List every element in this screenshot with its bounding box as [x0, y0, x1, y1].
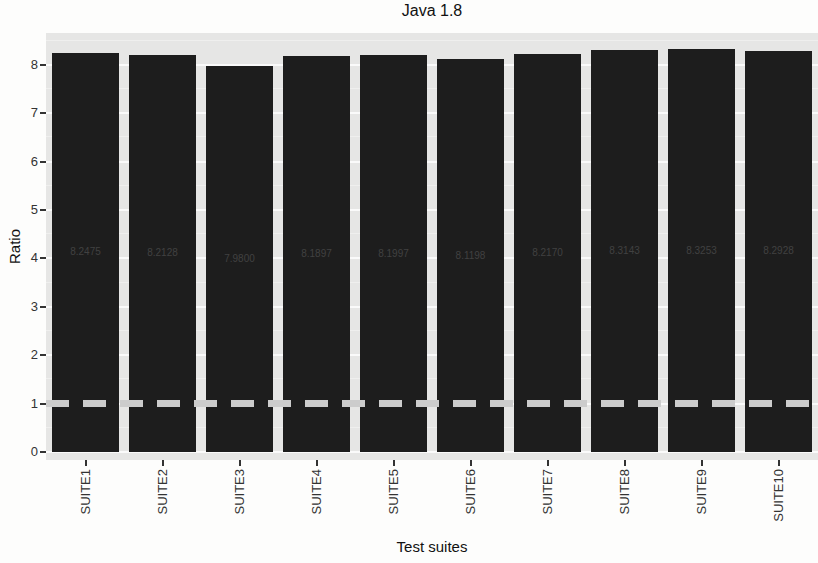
bar-suite5: 8.1997 — [360, 55, 427, 452]
bar-suite1: 8.2475 — [52, 53, 119, 452]
x-tick-label-suite1: SUITE1 — [79, 469, 93, 515]
x-tick-label-suite2: SUITE2 — [156, 469, 170, 515]
y-tick-label: 5 — [0, 203, 38, 217]
y-tick-mark — [40, 306, 46, 308]
bar-suite10: 8.2928 — [745, 51, 812, 452]
bar-suite2: 8.2128 — [129, 55, 196, 452]
gridline-minor — [46, 40, 818, 41]
y-tick-label: 1 — [0, 397, 38, 411]
x-tick-label-suite9: SUITE9 — [695, 469, 709, 515]
x-tick-mark — [239, 460, 241, 466]
bar-value-label: 8.2128 — [129, 247, 196, 258]
bar-suite4: 8.1897 — [283, 56, 350, 452]
y-tick-mark — [40, 257, 46, 259]
x-tick-mark — [85, 460, 87, 466]
bar-value-label: 8.2170 — [514, 247, 581, 258]
bar-value-label: 8.1997 — [360, 248, 427, 259]
bar-value-label: 8.3253 — [668, 245, 735, 256]
x-tick-label-suite3: SUITE3 — [233, 469, 247, 515]
x-tick-mark — [624, 460, 626, 466]
bar-value-label: 8.2928 — [745, 245, 812, 256]
y-tick-label: 7 — [0, 106, 38, 120]
bar-suite9: 8.3253 — [668, 49, 735, 452]
y-axis-title: Ratio — [6, 137, 23, 357]
bar-value-label: 7.9800 — [206, 253, 273, 264]
x-tick-label-suite7: SUITE7 — [541, 469, 555, 515]
bar-value-label: 8.1897 — [283, 248, 350, 259]
x-tick-mark — [778, 460, 780, 466]
x-tick-mark — [316, 460, 318, 466]
x-tick-label-suite4: SUITE4 — [310, 469, 324, 515]
chart-title: Java 1.8 — [46, 2, 818, 20]
x-tick-label-suite6: SUITE6 — [464, 469, 478, 515]
reference-line-y1 — [46, 400, 818, 407]
bar-value-label: 8.1198 — [437, 250, 504, 261]
y-tick-mark — [40, 64, 46, 66]
x-tick-mark — [393, 460, 395, 466]
y-tick-label: 0 — [0, 445, 38, 459]
y-tick-mark — [40, 354, 46, 356]
x-tick-label-suite10: SUITE10 — [772, 469, 786, 522]
x-tick-label-suite8: SUITE8 — [618, 469, 632, 515]
x-tick-label-suite5: SUITE5 — [387, 469, 401, 515]
bar-suite3: 7.9800 — [206, 66, 273, 452]
chart: Java 1.8 Ratio 8.24758.21287.98008.18978… — [0, 0, 818, 563]
x-axis-title: Test suites — [46, 538, 818, 555]
x-tick-mark — [547, 460, 549, 466]
bar-suite8: 8.3143 — [591, 50, 658, 452]
y-tick-mark — [40, 209, 46, 211]
y-tick-mark — [40, 161, 46, 163]
x-tick-mark — [701, 460, 703, 466]
y-tick-label: 4 — [0, 251, 38, 265]
x-tick-mark — [162, 460, 164, 466]
plot-panel: 8.24758.21287.98008.18978.19978.11988.21… — [46, 33, 818, 460]
y-tick-label: 6 — [0, 155, 38, 169]
bar-value-label: 8.2475 — [52, 246, 119, 257]
y-tick-label: 3 — [0, 300, 38, 314]
bar-suite7: 8.2170 — [514, 54, 581, 452]
y-tick-mark — [40, 112, 46, 114]
bar-value-label: 8.3143 — [591, 245, 658, 256]
y-tick-label: 8 — [0, 58, 38, 72]
y-tick-mark — [40, 451, 46, 453]
y-tick-label: 2 — [0, 348, 38, 362]
x-tick-mark — [470, 460, 472, 466]
bar-suite6: 8.1198 — [437, 59, 504, 452]
